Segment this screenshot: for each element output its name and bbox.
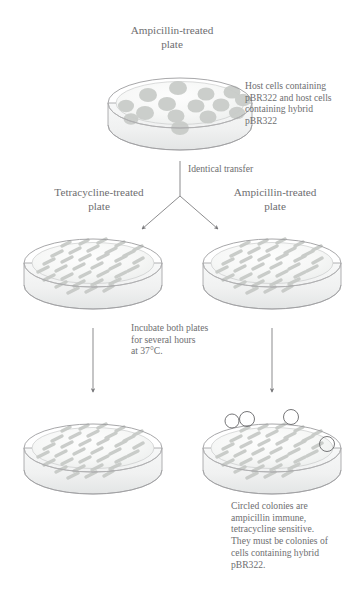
streak [134,246,142,250]
colony [158,97,176,111]
circled-colony-marker [240,412,255,427]
label-tetracycline-plate: Tetracycline-treated plate [34,186,164,213]
streak [313,246,321,250]
page-title-top-plate: Ampicillin-treated plate [92,24,252,51]
plate-mid-tetracycline [24,239,162,309]
circled-colony-marker [284,410,299,425]
annotation-incubate: Incubate both plates for several hours a… [131,322,251,357]
plate-top-ampicillin [108,78,252,150]
colony [188,99,205,112]
label-ampicillin-plate: Ampicillin-treated plate [210,186,340,213]
streak [134,431,142,435]
plate-bottom-ampicillin [203,410,341,495]
colony [118,100,134,112]
annotation-circled-colonies: Circled colonies are ampicillin immune, … [231,500,357,570]
colony [169,81,187,95]
annotation-host-cells: Host cells containing pBR322 and host ce… [245,80,363,127]
figure-canvas: Ampicillin-treated plate Host cells cont… [0,0,363,597]
colony [213,98,230,111]
streak [313,431,321,435]
colony [229,107,245,119]
colony [198,87,215,100]
colony [136,106,154,120]
annotation-identical-transfer: Identical transfer [188,163,308,175]
plate-bottom-tetracycline [24,424,162,494]
colony [139,88,157,102]
colony [168,109,185,122]
plate-mid-ampicillin [203,239,341,309]
circled-colony-marker [225,414,239,428]
colony [200,110,217,123]
